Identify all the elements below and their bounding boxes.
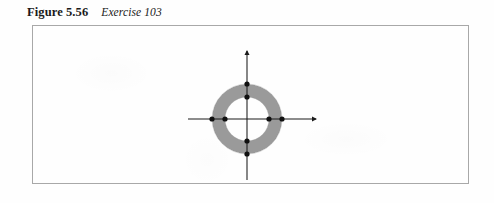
figure-caption: Figure 5.56 Exercise 103 — [27, 3, 162, 21]
annulus-diagram — [33, 26, 468, 183]
point-outer-left — [209, 116, 214, 121]
point-inner-right — [266, 116, 271, 121]
point-outer-top — [244, 81, 249, 86]
point-inner-top — [244, 94, 249, 99]
point-outer-right — [279, 116, 284, 121]
point-inner-left — [222, 116, 227, 121]
point-outer-bottom — [244, 151, 249, 156]
figure-title-label: Exercise 103 — [101, 6, 162, 18]
figure-frame — [32, 25, 469, 184]
figure-number-label: Figure 5.56 — [27, 5, 88, 20]
point-inner-bottom — [244, 138, 249, 143]
